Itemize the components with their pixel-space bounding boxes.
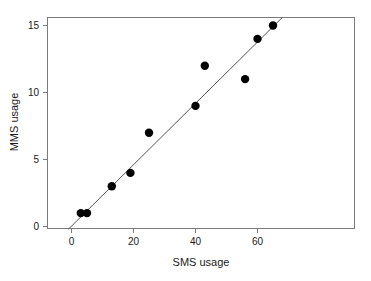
data-point [83,209,91,217]
plot-frame [48,18,355,229]
y-tick-label-10: 10 [28,87,40,98]
y-tick-label-5: 5 [33,154,39,165]
y-tick-label-0: 0 [33,221,39,232]
data-point [269,21,277,29]
x-tick-label-0: 0 [69,236,75,247]
data-point [126,169,134,177]
data-point [241,75,249,83]
data-point [201,61,209,69]
y-axis-ticks [43,26,48,227]
x-tick-label-20: 20 [128,236,140,247]
chart-figure: 15 10 5 0 0 20 40 60 SMS usage MMS usage [0,0,371,281]
data-point [191,102,199,110]
y-axis-title: MMS usage [8,93,20,152]
x-tick-label-40: 40 [190,236,202,247]
data-point [108,182,116,190]
data-point [253,35,261,43]
x-tick-label-60: 60 [252,236,264,247]
x-axis-title: SMS usage [173,256,230,268]
y-tick-label-15: 15 [28,20,40,31]
y-axis-tick-labels: 15 10 5 0 [28,20,40,232]
scatter-plot: 15 10 5 0 0 20 40 60 SMS usage MMS usage [0,0,371,281]
x-axis-tick-labels: 0 20 40 60 [69,236,264,247]
x-axis-ticks [72,229,258,234]
trend-line [68,17,282,229]
data-point [145,129,153,137]
data-point-group [77,21,278,217]
